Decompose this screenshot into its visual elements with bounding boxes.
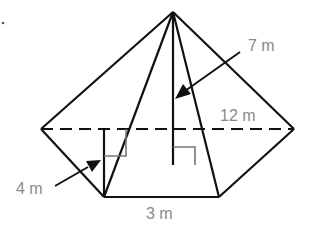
pyramid-diagram xyxy=(0,0,310,232)
edge-right-bottom-right xyxy=(219,129,294,197)
label-base: 3 m xyxy=(146,206,173,222)
edge-apex-left xyxy=(41,12,173,129)
right-angle-left xyxy=(104,129,126,156)
right-angle-center xyxy=(173,147,195,165)
arrow-4m xyxy=(55,160,101,186)
pyramid-figure: 7 m 12 m 4 m 3 m xyxy=(0,0,310,232)
label-width: 12 m xyxy=(220,108,256,124)
corner-mark xyxy=(2,22,5,25)
edge-apex-bottom-right xyxy=(173,12,219,197)
label-height: 7 m xyxy=(248,38,275,54)
label-side-height: 4 m xyxy=(16,181,43,197)
edge-apex-bottom-left xyxy=(104,12,173,197)
